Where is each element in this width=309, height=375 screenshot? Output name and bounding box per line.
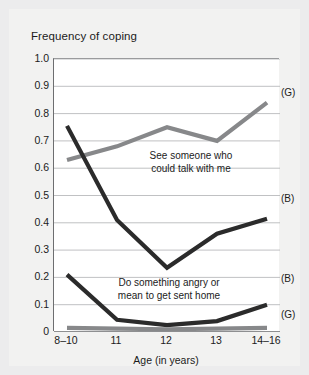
annotation-see-someone-line2: could talk with me — [150, 162, 233, 175]
y-axis-tick-label: 0 — [15, 325, 49, 337]
x-axis-tick-label: 13 — [210, 334, 222, 346]
y-axis-tick-label: 0.2 — [15, 270, 49, 282]
series-line-1 — [67, 126, 267, 268]
series-tag-angry-girls: (G) — [281, 309, 295, 320]
series-tag-talk-girls: (G) — [281, 87, 295, 98]
annotation-do-something-angry-line2: mean to get sent home — [118, 289, 220, 302]
y-axis: 1.00.90.80.70.60.50.40.30.20.10 — [13, 58, 49, 331]
y-axis-tick-label: 1.0 — [15, 52, 49, 64]
y-axis-tick-label: 0.8 — [15, 107, 49, 119]
x-axis: 8–1011121314–16 — [53, 334, 279, 352]
series-line-3 — [67, 328, 267, 329]
y-axis-tick-label: 0.9 — [15, 79, 49, 91]
y-axis-tick-label: 0.3 — [15, 243, 49, 255]
annotation-see-someone-line1: See someone who — [150, 149, 233, 162]
annotation-do-something-angry: Do something angry or mean to get sent h… — [118, 276, 220, 302]
page-title: Frequency of coping — [31, 30, 137, 42]
chart-figure: Frequency of coping 1.00.90.80.70.60.50.… — [0, 0, 309, 375]
x-axis-tick-label: 14–16 — [251, 334, 280, 346]
y-axis-tick-label: 0.7 — [15, 134, 49, 146]
y-axis-tick-label: 0.1 — [15, 298, 49, 310]
x-axis-tick-label: 12 — [160, 334, 172, 346]
y-axis-tick-label: 0.5 — [15, 189, 49, 201]
series-tag-angry-boys: (B) — [281, 273, 294, 284]
series-tag-talk-boys: (B) — [281, 193, 294, 204]
x-axis-tick-label: 8–10 — [54, 334, 77, 346]
annotation-do-something-angry-line1: Do something angry or — [118, 276, 220, 289]
x-axis-tick-label: 11 — [111, 334, 122, 346]
y-axis-tick-label: 0.6 — [15, 161, 49, 173]
x-axis-label: Age (in years) — [53, 354, 279, 366]
chart-card: Frequency of coping 1.00.90.80.70.60.50.… — [9, 9, 300, 366]
y-axis-tick-label: 0.4 — [15, 216, 49, 228]
annotation-see-someone: See someone who could talk with me — [150, 149, 233, 175]
